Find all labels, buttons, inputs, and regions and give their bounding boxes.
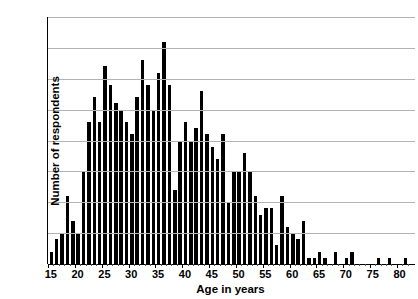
x-minor-tick-26 [107,264,108,266]
bar [119,110,123,264]
x-minor-tick-56 [268,264,269,266]
x-tick-label-30: 30 [116,269,146,280]
bar [350,252,354,264]
gridline-25 [48,110,415,111]
x-minor-tick-37 [166,264,167,266]
x-minor-tick-49 [231,264,232,266]
chart-title [0,0,418,2]
bar [162,42,166,264]
bar [254,196,258,264]
bar [168,85,172,264]
bar [216,159,220,264]
x-tick-label-25: 25 [89,269,119,280]
x-minor-tick-19 [70,264,71,266]
x-minor-tick-62 [300,264,301,266]
x-minor-tick-41 [188,264,189,266]
x-minor-tick-24 [96,264,97,266]
x-tick-label-50: 50 [224,269,254,280]
x-minor-tick-59 [284,264,285,266]
gridline-40 [48,17,415,18]
gridline-10 [48,202,415,203]
bar [184,122,188,264]
x-minor-tick-57 [273,264,274,266]
bar [270,208,274,264]
bar [152,110,156,264]
x-minor-tick-27 [112,264,113,266]
x-minor-tick-34 [150,264,151,266]
bar [194,128,198,264]
x-tick-label-80: 80 [385,269,415,280]
x-minor-tick-33 [145,264,146,266]
bar [237,171,241,264]
x-minor-tick-28 [118,264,119,266]
x-minor-tick-72 [354,264,355,266]
bar [232,171,236,264]
x-minor-tick-46 [214,264,215,266]
x-tick-label-40: 40 [170,269,200,280]
x-minor-tick-32 [139,264,140,266]
x-minor-tick-42 [193,264,194,266]
bar [291,233,295,264]
x-minor-tick-36 [161,264,162,266]
bar [259,215,263,264]
x-tick-label-60: 60 [277,269,307,280]
gridline-30 [48,79,415,80]
x-minor-tick-81 [402,264,403,266]
bar [125,122,129,264]
x-minor-tick-16 [53,264,54,266]
x-tick-label-65: 65 [304,269,334,280]
bar [76,233,80,264]
gridline-20 [48,141,415,142]
x-minor-tick-54 [257,264,258,266]
bar [157,73,161,264]
bar [109,85,113,264]
bar [103,66,107,264]
x-tick-label-20: 20 [63,269,93,280]
bar [173,190,177,264]
x-tick-label-35: 35 [143,269,173,280]
x-minor-tick-22 [86,264,87,266]
bar [318,252,322,264]
x-minor-tick-17 [59,264,60,266]
bar [93,97,97,264]
x-axis-label: Age in years [47,283,414,295]
bar [296,239,300,264]
x-minor-tick-66 [322,264,323,266]
x-minor-tick-79 [391,264,392,266]
x-minor-tick-43 [198,264,199,266]
x-minor-tick-39 [177,264,178,266]
x-minor-tick-51 [241,264,242,266]
x-minor-tick-74 [365,264,366,266]
bar [82,171,86,264]
x-tick-label-15: 15 [36,269,66,280]
bar [66,196,70,264]
x-minor-tick-76 [375,264,376,266]
x-minor-tick-67 [327,264,328,266]
bar [98,122,102,264]
bar [200,91,204,264]
gridline-35 [48,48,415,49]
x-tick-label-45: 45 [197,269,227,280]
x-tick-label-75: 75 [358,269,388,280]
bar [264,208,268,264]
x-minor-tick-48 [225,264,226,266]
x-minor-tick-23 [91,264,92,266]
bar [280,196,284,264]
bar [146,85,150,264]
plot-area: Number of respondents 0510152025303540 [47,17,415,264]
x-minor-tick-71 [349,264,350,266]
x-minor-tick-29 [123,264,124,266]
x-minor-tick-21 [80,264,81,266]
histogram-chart: Number of respondents 0510152025303540 1… [0,0,418,299]
x-minor-tick-52 [247,264,248,266]
x-minor-tick-53 [252,264,253,266]
bar [248,171,252,264]
bar [275,245,279,264]
bar [205,134,209,264]
bar [130,134,134,264]
x-tick-label-70: 70 [331,269,361,280]
x-tick-label-55: 55 [250,269,280,280]
x-minor-tick-64 [311,264,312,266]
x-minor-tick-63 [306,264,307,266]
x-minor-tick-47 [220,264,221,266]
